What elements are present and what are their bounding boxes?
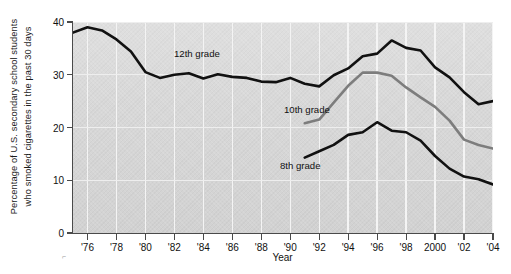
plot-area bbox=[73, 22, 493, 233]
x-tick-mark-1982 bbox=[174, 234, 175, 240]
x-tick-mark-1992 bbox=[319, 234, 320, 240]
y-tick-mark-20 bbox=[67, 127, 73, 128]
x-tick-mark-1976 bbox=[87, 234, 88, 240]
x-tick-mark-2002 bbox=[463, 234, 464, 240]
x-tick-mark-1990 bbox=[290, 234, 291, 240]
y-tick-label-30: 30 bbox=[53, 69, 64, 80]
y-tick-label-40: 40 bbox=[53, 17, 64, 28]
x-axis-line bbox=[72, 233, 494, 234]
corner-artifact-mark: ⌐ bbox=[62, 253, 66, 260]
x-tick-mark-1986 bbox=[232, 234, 233, 240]
y-tick-label-10: 10 bbox=[53, 175, 64, 186]
plot-wrapper: 010203040 '76'78'80'82'84'86'88'90'92'94… bbox=[44, 8, 499, 264]
x-tick-mark-1988 bbox=[261, 234, 262, 240]
y-tick-label-20: 20 bbox=[53, 122, 64, 133]
x-axis-title-text: Year bbox=[250, 252, 292, 263]
x-tick-mark-1994 bbox=[348, 234, 349, 240]
series-label-10th-grade: 10th grade bbox=[284, 104, 330, 115]
x-tick-mark-2004 bbox=[492, 234, 493, 240]
x-tick-mark-1984 bbox=[203, 234, 204, 240]
x-tick-mark-1998 bbox=[406, 234, 407, 240]
x-tick-mark-2000 bbox=[434, 234, 435, 240]
series-line-10th-grade bbox=[305, 73, 493, 149]
y-tick-mark-0 bbox=[67, 232, 73, 233]
y-axis-title-line2: who smoked cigarettes in the past 30 day… bbox=[22, 18, 36, 214]
series-line-12th-grade bbox=[73, 27, 493, 104]
series-label-8th-grade: 8th grade bbox=[280, 160, 321, 171]
x-tick-mark-1980 bbox=[145, 234, 146, 240]
chart-figure: Percentage of U.S. secondary school stud… bbox=[0, 0, 511, 274]
y-tick-mark-30 bbox=[67, 74, 73, 75]
y-tick-mark-10 bbox=[67, 180, 73, 181]
y-tick-label-0: 0 bbox=[58, 228, 64, 239]
y-axis-title-line1: Percentage of U.S. secondary school stud… bbox=[9, 18, 23, 214]
series-label-12th-grade: 12th grade bbox=[174, 48, 220, 59]
series-line-8th-grade bbox=[305, 122, 493, 184]
x-axis-title: Year bbox=[44, 252, 499, 263]
x-tick-mark-1996 bbox=[377, 234, 378, 240]
x-tick-mark-1978 bbox=[116, 234, 117, 240]
y-tick-mark-40 bbox=[67, 21, 73, 22]
series-lines bbox=[73, 22, 493, 233]
y-axis-title: Percentage of U.S. secondary school stud… bbox=[0, 0, 44, 232]
